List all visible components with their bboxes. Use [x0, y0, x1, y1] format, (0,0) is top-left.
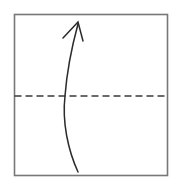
diagram-canvas: Curved upward arrow crossing a horizonta… — [0, 0, 176, 188]
figure-svg — [0, 0, 176, 188]
background-rect — [0, 0, 176, 188]
